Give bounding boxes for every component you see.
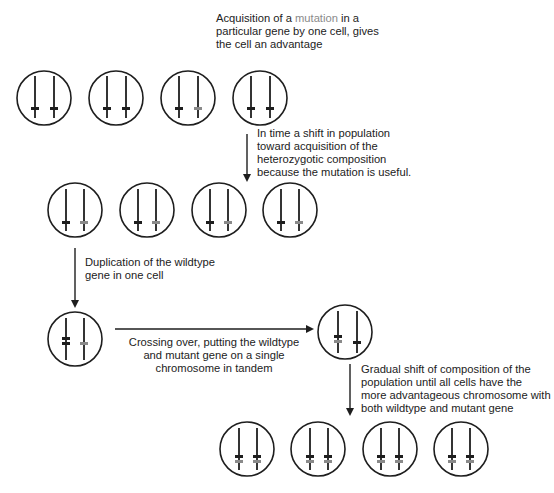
label-step2-population-shift: In time a shift in population toward acq… — [257, 127, 411, 179]
label-text: particular gene by one cell, gives — [216, 25, 379, 38]
cell-wt-mutant — [263, 183, 317, 237]
cell-tandem-tandem — [291, 422, 345, 476]
label-text: because the mutation is useful. — [257, 166, 411, 179]
label-text: in a — [338, 12, 359, 24]
label-text: more advantageous chromosome with — [361, 389, 551, 402]
label-step5-gradual-shift: Gradual shift of composition of the popu… — [361, 363, 551, 415]
cell-tandem-tandem — [363, 422, 417, 476]
label-text: heterozygotic composition — [257, 153, 411, 166]
cell-duplicated-wildtype — [48, 312, 102, 366]
cell-wt-wt — [233, 71, 287, 125]
mutation-highlight: mutation — [295, 12, 338, 24]
label-text: the cell an advantage — [216, 38, 379, 51]
label-text: Gradual shift of composition of the — [361, 363, 551, 376]
label-text: gene in one cell — [85, 269, 215, 282]
cell-tandem-tandem — [220, 422, 274, 476]
label-text: toward acquisition of the — [257, 140, 411, 153]
label-step1-mutation-acquisition: Acquisition of a mutation in a particula… — [216, 12, 379, 51]
row-heterozygous-population — [48, 183, 317, 237]
cell-tandem-crossover — [318, 305, 372, 359]
cell-wt-mutant — [161, 71, 215, 125]
row-initial-population — [17, 71, 287, 125]
label-text: both wildtype and mutant gene — [361, 402, 551, 415]
cell-wt-mutant — [192, 183, 246, 237]
cell-tandem-tandem — [434, 422, 488, 476]
gene-duplication-diagram — [0, 0, 554, 493]
cell-wt-wt — [89, 71, 143, 125]
label-text: Crossing over, putting the wildtype — [112, 336, 316, 349]
label-text: Duplication of the wildtype — [85, 256, 215, 269]
label-text: chromosome in tandem — [112, 362, 316, 375]
label-text: Acquisition of a — [216, 12, 295, 24]
label-text: and mutant gene on a single — [112, 349, 316, 362]
cell-wt-mutant — [120, 183, 174, 237]
label-step4-crossing-over: Crossing over, putting the wildtype and … — [112, 336, 316, 375]
label-text: In time a shift in population — [257, 127, 411, 140]
cell-wt-wt — [17, 71, 71, 125]
cell-wt-mutant — [48, 183, 102, 237]
label-text: population until all cells have the — [361, 376, 551, 389]
label-step3-duplication: Duplication of the wildtype gene in one … — [85, 256, 215, 282]
row-final-population — [220, 422, 488, 476]
